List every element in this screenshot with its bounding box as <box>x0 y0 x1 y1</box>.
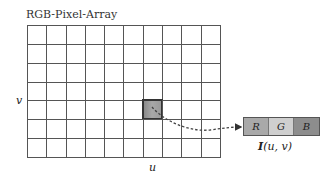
pixel-label-args: (u, v) <box>263 140 292 153</box>
component-r: R <box>244 118 269 135</box>
pixel-label: I(u, v) <box>258 140 292 153</box>
component-b: B <box>294 118 319 135</box>
rgb-pixel-vector: R G B <box>243 117 320 136</box>
component-g: G <box>269 118 294 135</box>
